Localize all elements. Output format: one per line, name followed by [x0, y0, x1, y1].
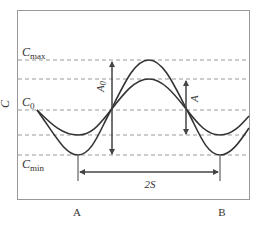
figure-frame — [18, 11, 250, 200]
large-amplitude-curve — [37, 60, 249, 155]
point-a-label: A — [73, 206, 81, 218]
a-label: A — [188, 95, 200, 103]
c-max-label: Cmax — [22, 45, 46, 61]
dashed-levels — [18, 60, 249, 155]
y-axis-label: C — [0, 99, 12, 108]
point-b-label: B — [218, 206, 225, 218]
2s-label: 2S — [145, 178, 157, 190]
c0-label: C0 — [22, 95, 35, 111]
small-amplitude-curve — [37, 79, 249, 135]
diagram-frame — [18, 11, 122, 86]
concentration-wave-diagram: A0 A 2S Cmax C0 Cmin C A B — [0, 0, 261, 230]
a0-label: A0 — [94, 81, 108, 93]
c-min-label: Cmin — [22, 157, 45, 173]
